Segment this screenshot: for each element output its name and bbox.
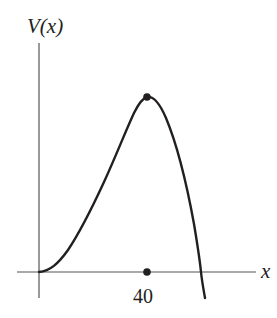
chart-canvas: V(x) x 40 bbox=[0, 0, 277, 318]
x-tick-40-marker bbox=[143, 268, 151, 276]
x-axis-label: x bbox=[260, 259, 271, 283]
maximum-point-marker bbox=[143, 93, 151, 101]
volume-curve bbox=[39, 97, 205, 298]
x-tick-label-40: 40 bbox=[133, 285, 153, 307]
y-axis-label: V(x) bbox=[27, 14, 63, 38]
